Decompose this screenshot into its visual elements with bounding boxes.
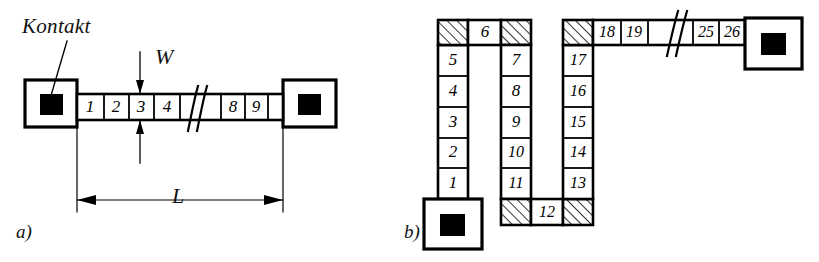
- cell-number: 18: [599, 23, 615, 40]
- cell-number: 13: [570, 174, 586, 191]
- figure-resistor-layouts: 1 2 3 4 8 9 Kontakt W L a): [0, 0, 819, 262]
- bottom-contact-pad-b: [424, 199, 482, 249]
- hatched-corner-bottom-right: [563, 199, 593, 225]
- hatched-corner-bottom-left: [501, 199, 531, 225]
- cell-number: 16: [570, 82, 586, 99]
- hatched-corner-top-right: [563, 20, 593, 45]
- right-contact-pad-b: [745, 18, 802, 69]
- cell-number: 15: [570, 113, 586, 130]
- cell-number: 2: [449, 142, 458, 161]
- cell-number: 5: [449, 50, 458, 69]
- cell-number: 6: [481, 22, 490, 41]
- top-strip-b: [593, 20, 745, 45]
- cell-number: 25: [698, 23, 714, 40]
- cell-number: 1: [449, 173, 458, 192]
- cell-number: 19: [626, 23, 642, 40]
- cell-number: 8: [512, 81, 521, 100]
- cell-number: 9: [512, 112, 521, 131]
- cell-number: 3: [448, 112, 458, 131]
- cell-number: 26: [724, 23, 740, 40]
- cell-number: 14: [570, 143, 586, 160]
- cell-number: 10: [508, 143, 524, 160]
- cell-number: 17: [570, 51, 587, 68]
- hatched-corner-top-left: [438, 20, 468, 45]
- hatched-corner-top-mid: [501, 20, 531, 45]
- cell-number: 12: [539, 203, 555, 220]
- cell-number: 11: [509, 174, 524, 191]
- cell-number: 4: [449, 81, 458, 100]
- part-label-b: b): [404, 222, 420, 241]
